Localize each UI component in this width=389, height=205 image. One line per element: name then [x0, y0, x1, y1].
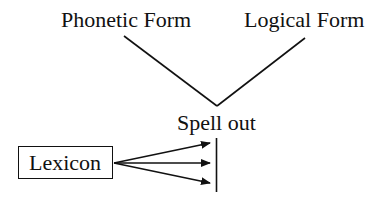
logical-form-label: Logical Form: [244, 9, 364, 31]
lexicon-arrow-top: [114, 143, 210, 163]
line-to-phonetic-form: [124, 36, 217, 106]
spell-out-label: Spell out: [177, 112, 256, 134]
line-to-logical-form: [217, 38, 305, 106]
lexicon-box: Lexicon: [18, 146, 113, 179]
lexicon-label: Lexicon: [29, 152, 101, 174]
diagram-canvas: Phonetic Form Logical Form Spell out Lex…: [0, 0, 389, 205]
phonetic-form-label: Phonetic Form: [61, 9, 191, 31]
lexicon-arrow-bottom: [114, 163, 210, 183]
